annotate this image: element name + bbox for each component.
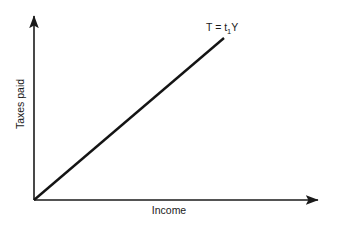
line-equation-annotation: T = t1Y <box>206 22 238 33</box>
tax-function-figure: Taxes paid Income T = t1Y <box>0 0 338 229</box>
y-axis-title-container: Taxes paid <box>0 96 40 112</box>
equation-prefix: T = t <box>206 21 227 33</box>
plot-area <box>0 0 338 229</box>
x-axis-title: Income <box>0 205 338 216</box>
y-axis-title: Taxes paid <box>15 79 26 129</box>
tax-function-line <box>34 38 224 200</box>
equation-suffix: Y <box>231 21 238 33</box>
